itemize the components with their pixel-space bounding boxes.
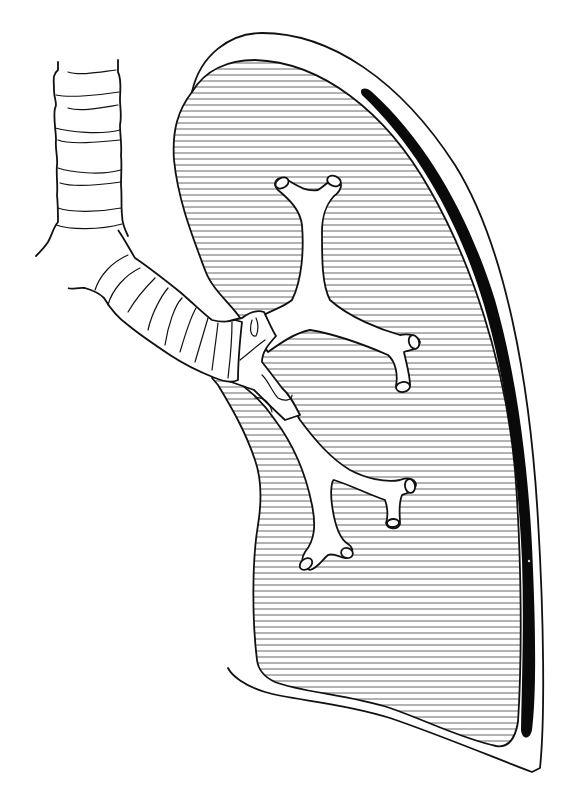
trachea-ring-1 [68,70,116,74]
trachea-ring-4 [55,128,120,133]
trachea-ring-8 [58,208,121,211]
trachea-ring-5 [58,140,120,143]
trachea-ring-3 [68,105,118,110]
trachea-right-wall [118,60,128,236]
trachea-ring-6 [58,168,121,173]
trachea-ring-9 [56,224,122,229]
trachea-ring-2 [56,92,119,96]
trachea-ring-7 [60,182,121,186]
band-highlight-dot [528,560,530,562]
trachea-left-wall [36,62,58,256]
lung-parenchyma [174,60,521,746]
bronchus-tip-lower-4 [387,518,400,527]
lung-illustration [0,0,573,799]
